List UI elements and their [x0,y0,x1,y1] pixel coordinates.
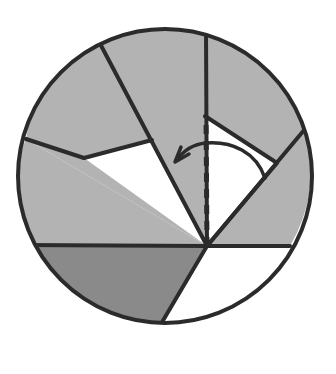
spoke-left-horizontal [20,245,207,246]
figure-container [0,0,336,374]
geometry-diagram-svg [0,0,336,374]
